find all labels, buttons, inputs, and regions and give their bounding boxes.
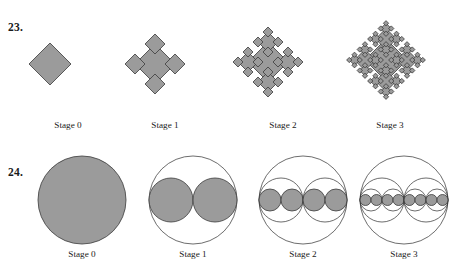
stage-caption-2: Stage 2 bbox=[269, 121, 296, 130]
figure-sheet: 23.Stage 0Stage 1Stage 2Stage 324.Stage … bbox=[0, 0, 454, 268]
figure-circle-subdivision-fractal-stage-1 bbox=[147, 154, 239, 246]
figure-diamond-fractal-stage-0 bbox=[5, 19, 95, 109]
figure-diamond-fractal-stage-1 bbox=[112, 21, 198, 107]
stage-caption-2: Stage 2 bbox=[289, 250, 316, 259]
stage-caption-3: Stage 3 bbox=[376, 121, 403, 130]
fractal-drawing bbox=[147, 154, 239, 246]
fractal-drawing bbox=[225, 19, 311, 105]
fractal-drawing bbox=[358, 154, 450, 246]
fractal-drawing bbox=[112, 21, 198, 107]
fractal-drawing bbox=[341, 15, 431, 105]
figure-circle-subdivision-fractal-stage-2 bbox=[257, 154, 349, 246]
fractal-drawing bbox=[257, 154, 349, 246]
figure-diamond-fractal-stage-2 bbox=[225, 19, 311, 105]
stage-caption-1: Stage 1 bbox=[179, 250, 206, 259]
figure-circle-subdivision-fractal-stage-0 bbox=[36, 154, 128, 246]
fractal-drawing bbox=[36, 154, 128, 246]
stage-caption-0: Stage 0 bbox=[54, 121, 81, 130]
stage-caption-1: Stage 1 bbox=[151, 121, 178, 130]
figure-diamond-fractal-stage-3 bbox=[341, 15, 431, 105]
stage-caption-0: Stage 0 bbox=[68, 250, 95, 259]
fractal-drawing bbox=[5, 19, 95, 109]
stage-caption-3: Stage 3 bbox=[390, 250, 417, 259]
figure-circle-subdivision-fractal-stage-3 bbox=[358, 154, 450, 246]
problem-number-24: 24. bbox=[8, 167, 23, 179]
